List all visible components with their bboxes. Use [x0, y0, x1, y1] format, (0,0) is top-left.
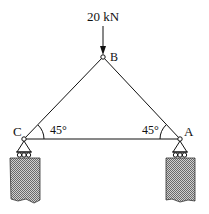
angle-arc-a	[160, 125, 166, 139]
angle-label-c: 45°	[50, 123, 67, 137]
node-b-pin	[101, 55, 105, 59]
truss-diagram: 20 kN 45° 45° B C A	[0, 0, 209, 214]
load-arrow	[100, 26, 106, 55]
support-c	[10, 141, 40, 203]
load-label: 20 kN	[87, 9, 120, 24]
support-a	[166, 141, 195, 202]
node-b-label: B	[110, 50, 118, 64]
node-c-label: C	[13, 124, 22, 139]
node-a-label: A	[184, 124, 194, 139]
angle-arc-c	[38, 125, 44, 139]
angle-label-a: 45°	[142, 123, 159, 137]
